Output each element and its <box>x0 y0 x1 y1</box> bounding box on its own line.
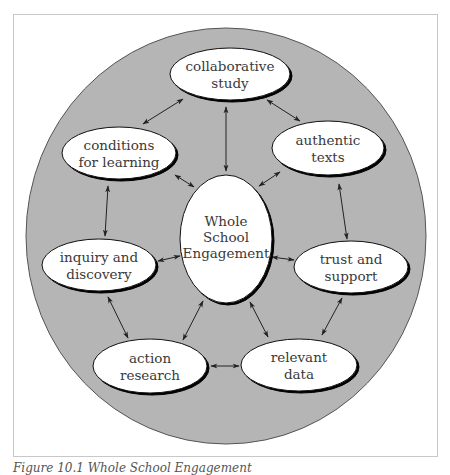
node-action-research <box>93 339 207 393</box>
node-trust-and-support <box>294 241 408 293</box>
label-action-line1: action <box>129 350 171 366</box>
label-inquiry-line1: inquiry and <box>60 249 139 265</box>
label-inquiry-line2: discovery <box>66 266 132 282</box>
label-relevant-line1: relevant <box>271 349 328 365</box>
node-inquiry-and-discovery <box>42 239 156 291</box>
label-center-line3: Engagement <box>183 245 270 261</box>
label-authentic-line1: authentic <box>296 132 361 148</box>
node-collaborative-study <box>170 48 290 100</box>
node-relevant-data <box>241 339 357 391</box>
label-center-line1: Whole <box>204 213 247 229</box>
label-relevant-line2: data <box>284 366 314 382</box>
label-action-line2: research <box>120 367 180 383</box>
label-authentic-line2: texts <box>311 149 344 165</box>
figure-caption: Figure 10.1 Whole School Engagement <box>13 461 252 475</box>
label-conditions-line2: for learning <box>78 154 159 170</box>
label-collaborative-line1: collaborative <box>185 58 274 74</box>
node-conditions-for-learning <box>62 127 176 179</box>
label-collaborative-line2: study <box>211 75 249 91</box>
label-center-line2: School <box>203 229 249 245</box>
node-authentic-texts <box>272 121 384 175</box>
label-trust-line1: trust and <box>320 251 383 267</box>
label-trust-line2: support <box>325 268 378 284</box>
label-conditions-line1: conditions <box>84 137 155 153</box>
